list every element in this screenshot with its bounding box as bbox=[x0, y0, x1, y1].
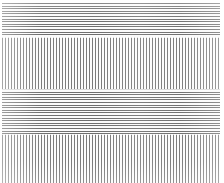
grating-band-4-vertical bbox=[2, 134, 220, 183]
grating-band-2-vertical bbox=[2, 37, 220, 89]
line-grating-plate: Line grating test pattern bbox=[0, 0, 224, 183]
grating-band-1-horizontal bbox=[2, 3, 220, 37]
grating-band-3-horizontal bbox=[2, 89, 220, 134]
